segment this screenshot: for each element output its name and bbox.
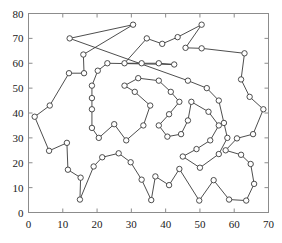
city-marker — [216, 123, 221, 128]
city-marker — [261, 107, 266, 112]
city-marker — [166, 182, 171, 187]
city-marker — [128, 160, 133, 165]
city-marker — [251, 181, 256, 186]
x-tick-label: 40 — [160, 218, 172, 230]
city-marker — [208, 138, 213, 143]
x-tick-label: 20 — [92, 218, 104, 230]
city-marker — [105, 61, 110, 66]
x-tick-label: 30 — [126, 218, 138, 230]
y-tick-label: 70 — [13, 32, 25, 44]
city-marker — [95, 68, 100, 73]
city-marker — [178, 131, 183, 136]
city-marker — [81, 71, 86, 76]
city-marker — [197, 198, 202, 203]
city-marker — [130, 22, 135, 27]
city-marker — [199, 46, 204, 51]
city-marker — [141, 123, 146, 128]
city-marker — [185, 78, 190, 83]
city-marker — [238, 77, 243, 82]
city-marker — [197, 165, 202, 170]
city-marker — [194, 146, 199, 151]
city-marker — [112, 121, 117, 126]
city-marker — [144, 36, 149, 41]
city-marker — [238, 152, 243, 157]
city-marker — [116, 151, 121, 156]
y-axis-tick-labels: 01020304050607080 — [13, 8, 25, 219]
city-marker — [91, 164, 96, 169]
city-marker — [166, 112, 171, 117]
city-marker — [65, 167, 70, 172]
city-marker — [78, 175, 83, 180]
tour-plot-svg: 010203040506070 01020304050607080 — [0, 0, 282, 243]
city-marker — [221, 120, 226, 125]
city-marker — [234, 136, 239, 141]
chart-figure: 010203040506070 01020304050607080 — [0, 0, 282, 243]
city-marker — [122, 61, 127, 66]
city-marker — [160, 41, 165, 46]
city-marker — [96, 135, 101, 140]
city-marker — [148, 103, 153, 108]
x-tick-label: 50 — [194, 218, 206, 230]
city-marker — [124, 138, 129, 143]
city-marker — [242, 51, 247, 56]
city-marker — [199, 22, 204, 27]
y-tick-label: 20 — [13, 157, 25, 169]
city-marker — [64, 140, 69, 145]
city-marker — [132, 89, 137, 94]
y-tick-label: 0 — [18, 207, 24, 219]
city-marker — [247, 94, 252, 99]
city-marker — [67, 36, 72, 41]
city-marker — [46, 148, 51, 153]
figure-background — [0, 0, 282, 243]
x-tick-label: 60 — [229, 218, 241, 230]
city-marker — [189, 99, 194, 104]
city-marker — [89, 95, 94, 100]
y-tick-label: 40 — [13, 107, 25, 119]
city-marker — [183, 45, 188, 50]
city-marker — [216, 151, 221, 156]
city-marker — [165, 134, 170, 139]
city-marker — [185, 118, 190, 123]
city-marker — [248, 161, 253, 166]
y-tick-label: 30 — [13, 132, 25, 144]
city-marker — [225, 135, 230, 140]
city-marker — [206, 109, 211, 114]
city-marker — [136, 75, 141, 80]
y-tick-label: 60 — [13, 57, 25, 69]
city-marker — [156, 61, 161, 66]
city-marker — [89, 125, 94, 130]
city-marker — [89, 107, 94, 112]
city-marker — [122, 83, 127, 88]
y-tick-label: 50 — [13, 82, 25, 94]
city-marker — [81, 52, 86, 57]
city-marker — [216, 98, 221, 103]
city-marker — [32, 114, 37, 119]
x-tick-label: 10 — [57, 218, 69, 230]
city-marker — [204, 85, 209, 90]
city-marker — [211, 177, 216, 182]
y-tick-label: 80 — [13, 8, 25, 20]
city-marker — [172, 62, 177, 67]
city-marker — [175, 34, 180, 39]
city-marker — [223, 148, 228, 153]
city-marker — [139, 177, 144, 182]
city-marker — [100, 155, 105, 160]
city-marker — [47, 103, 52, 108]
city-marker — [77, 197, 82, 202]
city-marker — [177, 99, 182, 104]
y-tick-label: 10 — [13, 182, 25, 194]
city-marker — [180, 154, 185, 159]
city-marker — [226, 197, 231, 202]
city-marker — [89, 83, 94, 88]
city-marker — [153, 174, 158, 179]
city-marker — [156, 78, 161, 83]
city-marker — [156, 123, 161, 128]
x-tick-label: 0 — [26, 218, 32, 230]
city-marker — [250, 131, 255, 136]
city-marker — [66, 71, 71, 76]
city-marker — [177, 166, 182, 171]
city-marker — [149, 197, 154, 202]
city-marker — [139, 61, 144, 66]
x-tick-label: 70 — [263, 218, 275, 230]
city-marker — [244, 198, 249, 203]
